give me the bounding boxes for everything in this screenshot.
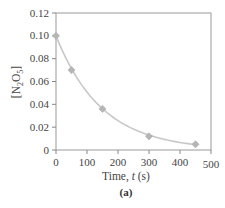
diamond-marker-icon — [192, 141, 199, 148]
y-tick-label: 0.10 — [30, 29, 50, 41]
y-tick-label: 0.12 — [30, 7, 49, 19]
figure-caption: (a) — [120, 186, 133, 199]
n2o5-decay-chart: 00.020.040.060.080.100.12 01002003004005… — [0, 0, 225, 208]
x-tick-label: 200 — [110, 156, 127, 168]
y-tick-label: 0.06 — [30, 75, 50, 87]
y-axis-title: [N2O5] — [10, 66, 25, 98]
x-tick-label: 0 — [53, 156, 59, 168]
y-tick-label: 0.08 — [30, 52, 50, 64]
data-markers — [52, 32, 199, 148]
y-axis-ticks: 00.020.040.060.080.100.12 — [30, 7, 56, 156]
x-tick-label: 400 — [172, 156, 189, 168]
x-tick-label: 500 — [203, 158, 220, 170]
y-tick-label: 0 — [44, 144, 50, 156]
x-axis-ticks: 0100200300400500 — [53, 150, 220, 170]
x-tick-label: 100 — [79, 156, 96, 168]
diamond-marker-icon — [52, 32, 59, 39]
y-tick-label: 0.04 — [30, 98, 50, 110]
x-axis-title: Time, t (s) — [102, 170, 150, 183]
x-tick-label: 300 — [141, 156, 158, 168]
fit-curve — [56, 36, 196, 145]
y-tick-label: 0.02 — [30, 121, 49, 133]
